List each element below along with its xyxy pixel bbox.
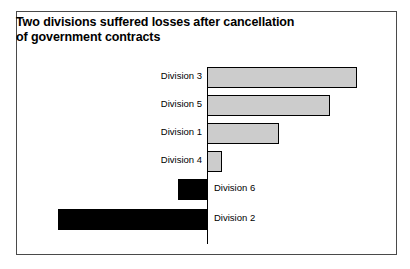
chart-frame: Division 3 Division 5 Division 1 Divisio… xyxy=(16,11,397,255)
bar-row: Division 3 xyxy=(17,64,398,93)
figure-root: Division 3 Division 5 Division 1 Divisio… xyxy=(0,0,410,269)
bar-division-5 xyxy=(207,95,330,116)
chart-title-line-1: Two divisions suffered losses after canc… xyxy=(16,15,346,30)
bar-division-2 xyxy=(58,209,207,230)
bar-row: Division 4 xyxy=(17,148,398,177)
bar-label-division-6: Division 6 xyxy=(214,182,255,194)
bar-division-6 xyxy=(178,179,207,200)
bar-row: Division 2 xyxy=(17,206,398,235)
bar-label-division-3: Division 3 xyxy=(161,70,202,82)
plot-area: Division 3 Division 5 Division 1 Divisio… xyxy=(17,12,398,256)
chart-title: Two divisions suffered losses after canc… xyxy=(16,15,346,45)
bar-row: Division 5 xyxy=(17,92,398,121)
bar-division-3 xyxy=(207,67,357,88)
bar-label-division-4: Division 4 xyxy=(161,154,202,166)
bar-label-division-5: Division 5 xyxy=(161,98,202,110)
bar-division-1 xyxy=(207,123,279,144)
bar-division-4 xyxy=(207,151,222,172)
bar-row: Division 1 xyxy=(17,120,398,149)
chart-title-line-2: of government contracts xyxy=(16,30,346,45)
bar-label-division-2: Division 2 xyxy=(214,212,255,224)
bar-row: Division 6 xyxy=(17,176,398,205)
bar-label-division-1: Division 1 xyxy=(161,126,202,138)
